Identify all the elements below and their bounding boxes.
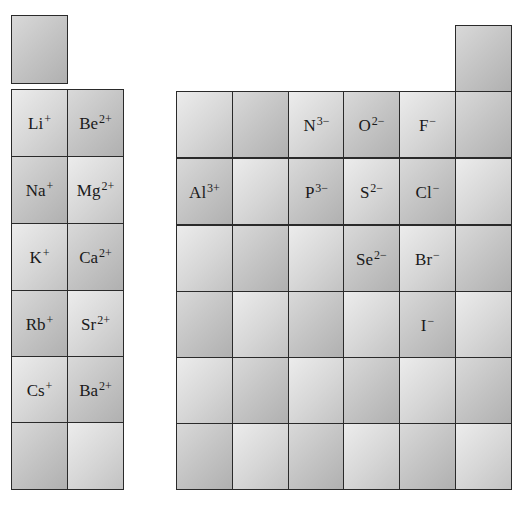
element-cell: Be2+ [67,89,124,157]
ion-label [260,248,261,270]
element-cell: P3− [288,158,345,225]
ion-charge: 3− [317,114,330,128]
ion-charge: − [429,114,436,128]
ion-label [204,314,205,336]
element-symbol: Cs [27,381,45,400]
ion-label: Be2+ [79,112,112,134]
ion-label: O2− [358,114,384,136]
element-symbol: Sr [81,315,96,334]
ion-charge: 2+ [99,246,112,260]
ion-charge: 2+ [99,112,112,126]
ion-label: Sr2+ [81,313,110,335]
element-symbol: I [421,316,427,335]
element-cell: S2− [343,158,400,225]
element-cell [232,291,289,358]
element-cell: I− [399,291,456,358]
ion-label [316,248,317,270]
ion-charge: + [44,112,51,126]
ion-label [371,380,372,402]
element-symbol: Na [26,181,46,200]
hydrogen-cell [11,15,68,84]
element-cell: Mg2+ [67,156,124,224]
ion-label [483,181,484,203]
ion-label: K+ [29,246,49,268]
element-cell [176,357,233,424]
element-cell [176,91,233,158]
element-cell [455,158,512,225]
ion-label [483,446,484,468]
ion-label [316,446,317,468]
ion-label [260,181,261,203]
ion-label [483,48,484,70]
element-symbol: S [360,183,369,202]
ion-charge: − [427,314,434,328]
element-cell [232,423,289,490]
element-cell [176,225,233,292]
ion-label [39,39,40,61]
element-cell [288,423,345,490]
element-cell [288,225,345,292]
element-cell: Ba2+ [67,356,124,424]
element-cell: Br− [399,225,456,292]
element-cell: Cl− [399,158,456,225]
ion-label [483,380,484,402]
ion-label [204,446,205,468]
element-symbol: Cl [416,183,432,202]
ion-label [95,445,96,467]
element-cell [455,225,512,292]
ion-label [316,314,317,336]
ion-label [204,380,205,402]
ion-label: P3− [305,181,328,203]
ion-label [371,446,372,468]
ion-label [316,380,317,402]
ion-charge: 2+ [101,179,114,193]
ion-label [483,248,484,270]
ion-label [260,446,261,468]
ion-label: Mg2+ [77,179,114,201]
element-cell [232,158,289,225]
element-cell: Sr2+ [67,290,124,358]
ion-label: S2− [360,181,383,203]
element-cell: Al3+ [176,158,233,225]
ion-charge: 2− [370,181,383,195]
ion-label: I− [421,314,434,336]
ion-charge: − [433,181,440,195]
element-symbol: Al [189,183,206,202]
ion-label [427,446,428,468]
element-cell [343,357,400,424]
ion-charge: 2− [372,114,385,128]
ion-label [427,380,428,402]
element-symbol: P [305,183,314,202]
ion-charge: 3+ [207,181,220,195]
element-cell: K+ [11,223,68,291]
ion-label: Ba2+ [79,379,112,401]
element-cell [288,291,345,358]
element-cell [176,291,233,358]
element-symbol: Se [356,250,373,269]
element-cell [232,91,289,158]
ion-charge: + [47,313,54,327]
ion-label: F− [419,114,436,136]
ion-label [483,114,484,136]
ion-label: Cs+ [27,379,53,401]
ion-label [204,114,205,136]
ion-label [260,114,261,136]
element-cell [455,357,512,424]
element-cell: Se2− [343,225,400,292]
ion-label [39,445,40,467]
element-symbol: Rb [26,315,46,334]
element-cell: Li+ [11,89,68,157]
element-cell [455,423,512,490]
element-cell: Cs+ [11,356,68,424]
element-cell: F− [399,91,456,158]
element-cell [399,423,456,490]
element-symbol: Ba [79,381,98,400]
element-cell [232,357,289,424]
element-symbol: Ca [79,248,98,267]
ion-charge: 2− [374,248,387,262]
element-cell: N3− [288,91,345,158]
element-cell [11,422,68,490]
ion-label [371,314,372,336]
ion-charge: 2+ [97,313,110,327]
element-cell [455,291,512,358]
